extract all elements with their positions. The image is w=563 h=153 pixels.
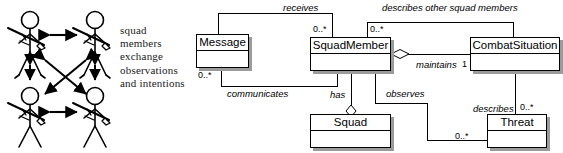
soldier-stick-figure [73,88,110,148]
uml-class-attributes-squadmember [310,54,391,71]
multiplicity-observes-threat: 0..* [455,131,469,141]
squad-illustration-panel: squad members exchange observations and … [0,0,190,153]
soldier-stick-figure [8,12,45,79]
association-label-maintains: maintains [416,59,457,70]
uml-class-name-threat: Threat [487,114,547,131]
uml-class-attributes-threat [487,131,547,148]
squad-illustration-caption: squad members exchange observations and … [120,24,190,90]
uml-class-message[interactable]: Message [196,34,249,68]
uml-class-name-message: Message [196,34,249,51]
uml-class-attributes-message [196,51,249,68]
association-label-receives: receives [283,2,318,13]
association-label-observes: observes [386,88,425,99]
multiplicity-describes-other-squadmember: 0..* [370,24,384,34]
soldier-stick-figure [8,88,45,148]
uml-class-name-combatsituation: CombatSituation [470,37,560,54]
uml-class-attributes-squad [310,131,391,148]
multiplicity-describes-threat: 0..* [520,102,534,112]
uml-class-attributes-combatsituation [470,54,560,71]
association-label-communicates: communicates [227,88,288,99]
uml-class-threat[interactable]: Threat [487,114,547,148]
multiplicity-communicates-message: 0..* [198,70,212,80]
uml-class-squadmember[interactable]: SquadMember [310,37,391,71]
association-label-has: has [330,89,345,100]
uml-class-name-squadmember: SquadMember [310,37,391,54]
association-label-describes: describes [473,103,514,114]
association-line-describes-other [367,22,513,37]
soldier-stick-figure [73,12,110,79]
multiplicity-receives-squadmember: 0..* [313,24,327,34]
association-label-describes-other: describes other squad members [382,2,518,13]
uml-class-diagram-panel: Message SquadMember CombatSituation Squa… [190,0,563,153]
uml-class-combatsituation[interactable]: CombatSituation [470,37,560,71]
figure-canvas: squad members exchange observations and … [0,0,563,153]
multiplicity-maintains-combatsituation: 1 [462,59,467,69]
uml-class-name-squad: Squad [310,114,391,131]
uml-class-squad[interactable]: Squad [310,114,391,148]
